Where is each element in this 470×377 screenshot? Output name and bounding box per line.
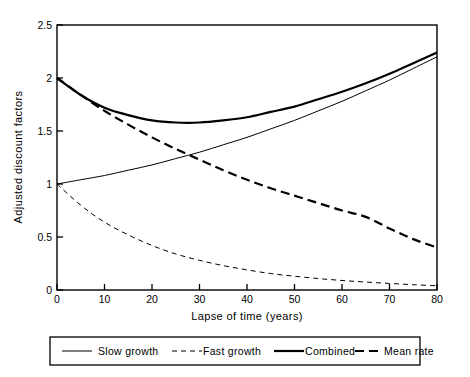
x-ticklabel-80: 80 <box>431 293 443 305</box>
y-ticklabel-2: 2 <box>46 72 52 84</box>
chart-figure: 0 0.5 1 1.5 2 2.5 0 10 20 30 40 50 <box>0 0 470 377</box>
series-fast-growth <box>57 184 437 286</box>
x-ticklabel-40: 40 <box>241 293 253 305</box>
chart-svg: 0 0.5 1 1.5 2 2.5 0 10 20 30 40 50 <box>0 0 470 377</box>
x-ticklabel-0: 0 <box>54 293 60 305</box>
legend-label-fast-growth: Fast growth <box>203 345 261 357</box>
y-ticklabel-1: 1 <box>46 178 52 190</box>
x-axis-ticks <box>57 284 437 290</box>
series-combined <box>57 53 437 123</box>
x-axis-title: Lapse of time (years) <box>191 310 303 322</box>
x-ticklabel-20: 20 <box>146 293 158 305</box>
series-mean-rate <box>57 78 437 248</box>
x-ticklabel-10: 10 <box>99 293 111 305</box>
y-ticklabel-0.5: 0.5 <box>37 231 52 243</box>
y-ticklabel-0: 0 <box>46 284 52 296</box>
x-ticklabel-60: 60 <box>336 293 348 305</box>
series-group <box>57 53 437 286</box>
x-ticklabel-30: 30 <box>194 293 206 305</box>
y-ticklabel-2.5: 2.5 <box>37 19 52 31</box>
x-ticklabel-50: 50 <box>289 293 301 305</box>
x-ticklabel-70: 70 <box>384 293 396 305</box>
y-ticklabel-1.5: 1.5 <box>37 125 52 137</box>
legend-label-combined: Combined <box>305 345 355 357</box>
chart-legend: Slow growth Fast growth Combined Mean ra… <box>50 337 434 365</box>
x-axis-ticklabels: 0 10 20 30 40 50 60 70 80 <box>54 293 443 305</box>
y-axis-ticks <box>57 25 63 290</box>
legend-label-slow-growth: Slow growth <box>98 345 159 357</box>
y-axis-title: Adjusted discount factors <box>12 90 24 223</box>
legend-label-mean-rate: Mean rate <box>384 345 434 357</box>
series-slow-growth <box>57 57 437 184</box>
y-axis-ticklabels: 0 0.5 1 1.5 2 2.5 <box>37 19 52 296</box>
plot-frame <box>57 25 437 290</box>
